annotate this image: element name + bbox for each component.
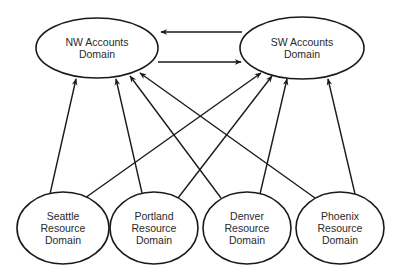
edge-phoenix-to-nw	[140, 73, 315, 198]
node-denver-resource-domain: Denver Resource Domain	[203, 192, 291, 264]
node-seattle-resource-domain: Seattle Resource Domain	[17, 192, 109, 264]
node-label-line2: Resource	[132, 222, 177, 234]
edge-seattle-to-sw	[85, 73, 261, 198]
node-phoenix-resource-domain: Phoenix Resource Domain	[296, 192, 384, 264]
edge-phoenix-to-sw	[328, 79, 355, 194]
node-label-line1: Denver	[230, 210, 264, 222]
edge-seattle-to-nw	[50, 79, 76, 194]
node-label-line2: Resource	[318, 222, 363, 234]
node-label-line3: Domain	[45, 234, 81, 246]
edge-denver-to-sw	[260, 79, 287, 194]
node-nw-accounts-domain: NW Accounts Domain	[36, 18, 158, 78]
node-label-line2: Domain	[79, 48, 115, 60]
trust-diagram: NW Accounts Domain SW Accounts Domain Se…	[0, 0, 401, 273]
node-label-line1: Seattle	[47, 210, 80, 222]
node-label-line3: Domain	[136, 234, 172, 246]
node-label-line2: Resource	[225, 222, 270, 234]
node-label-line1: NW Accounts	[65, 36, 128, 48]
node-label-line2: Resource	[41, 222, 86, 234]
node-label-line3: Domain	[229, 234, 265, 246]
node-label-line1: Portland	[134, 210, 173, 222]
node-label-line1: Phoenix	[321, 210, 360, 222]
node-label-line3: Domain	[322, 234, 358, 246]
edge-portland-to-nw	[116, 79, 142, 193]
node-portland-resource-domain: Portland Resource Domain	[110, 192, 198, 264]
node-label-line1: SW Accounts	[271, 36, 333, 48]
edge-portland-to-sw	[178, 76, 272, 198]
edge-denver-to-nw	[130, 76, 221, 198]
node-sw-accounts-domain: SW Accounts Domain	[240, 17, 364, 79]
node-label-line2: Domain	[284, 48, 320, 60]
